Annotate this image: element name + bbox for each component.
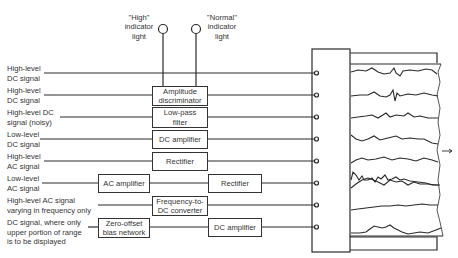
label-line: High-level (7, 64, 41, 74)
label-line: DC converter (156, 206, 203, 215)
label-line: signal (noisy) (7, 118, 54, 128)
label-line: Low-level (7, 174, 40, 184)
label-line: AC amplifier (103, 179, 144, 188)
label-line: Low-pass (164, 108, 197, 117)
label-line: light (202, 32, 242, 41)
label-line: DC amplifier (214, 223, 256, 232)
label-line: "Normal" (202, 13, 242, 22)
input-label-3: High-level DC signal (noisy) (7, 108, 54, 127)
input-label-2: High-level DC signal (7, 86, 41, 105)
label-line: varying in frequency only (7, 206, 91, 216)
label-line: DC signal (7, 140, 40, 150)
label-line: DC signal (7, 74, 41, 84)
input-label-5: High-level AC signal (7, 152, 41, 171)
low-pass-filter-block: Low-pass filter (152, 107, 208, 128)
input-label-1: High-level DC signal (7, 64, 41, 83)
label-line: upper portion of range (7, 228, 82, 238)
ac-amplifier-block: AC amplifier (98, 174, 150, 193)
label-line: "High" (121, 13, 157, 22)
label-line: AC signal (7, 162, 41, 172)
input-label-6: Low-level AC signal (7, 174, 40, 193)
label-line: High-level DC (7, 108, 54, 118)
amplitude-discriminator-block: Amplitude discriminator (152, 86, 208, 106)
normal-indicator-label: "Normal" indicator light (202, 13, 242, 41)
label-line: discriminator (158, 96, 201, 105)
label-line: Low-level (7, 130, 40, 140)
label-line: High-level AC signal (7, 196, 91, 206)
label-line: is to be displayed (7, 237, 82, 247)
input-label-4: Low-level DC signal (7, 130, 40, 149)
label-line: Rectifier (166, 157, 194, 166)
label-line: DC amplifier (159, 135, 201, 144)
label-line: indicator (202, 22, 242, 31)
label-line: Amplitude (158, 87, 201, 96)
rectifier-block-2: Rectifier (208, 174, 262, 193)
label-line: light (121, 32, 157, 41)
dc-amplifier-block-2: DC amplifier (208, 218, 262, 237)
label-line: Rectifier (221, 179, 249, 188)
dc-amplifier-block-1: DC amplifier (152, 130, 208, 149)
label-line: filter (164, 118, 197, 127)
label-line: DC signal, where only (7, 218, 82, 228)
high-indicator-label: "High" indicator light (121, 13, 157, 41)
label-line: DC signal (7, 96, 41, 106)
frequency-to-dc-converter-block: Frequency-to- DC converter (152, 196, 208, 216)
zero-offset-bias-block: Zero-offset bias network (98, 218, 150, 238)
label-line: High-level (7, 86, 41, 96)
input-label-8: DC signal, where only upper portion of r… (7, 218, 82, 247)
high-indicator-light-icon (159, 25, 168, 34)
input-label-7: High-level AC signal varying in frequenc… (7, 196, 91, 215)
label-line: bias network (103, 228, 146, 237)
label-line: indicator (121, 22, 157, 31)
label-line: High-level (7, 152, 41, 162)
label-line: Zero-offset (103, 219, 146, 228)
rectifier-block-1: Rectifier (152, 152, 208, 171)
label-line: Frequency-to- (156, 197, 203, 206)
normal-indicator-light-icon (192, 25, 201, 34)
label-line: AC signal (7, 184, 40, 194)
